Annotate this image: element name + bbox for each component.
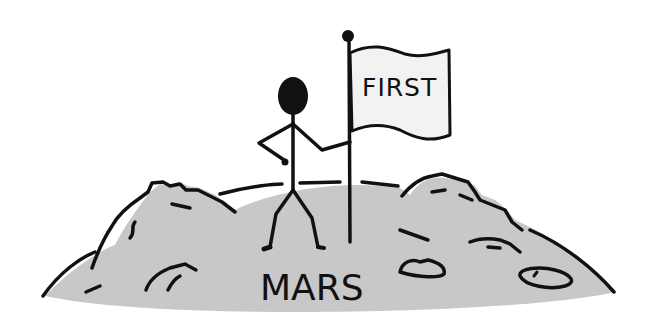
stick-figure-head	[278, 77, 308, 115]
mars-flag-drawing: FIRST MARS	[0, 0, 658, 328]
flag-text: FIRST	[362, 73, 437, 102]
stick-figure-left-arm	[259, 124, 293, 160]
stick-figure-right-arm	[293, 124, 350, 150]
xkcd-style-illustration: FIRST MARS	[0, 0, 658, 328]
flag-pole-finial	[342, 30, 354, 42]
ground-label: MARS	[260, 267, 364, 308]
flag-pole	[349, 38, 350, 242]
